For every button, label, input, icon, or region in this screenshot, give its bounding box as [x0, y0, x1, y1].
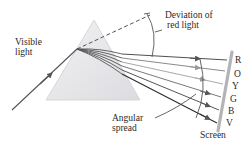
- angular-spread-label: Angular spread: [112, 113, 143, 133]
- spectrum-label-violet: V: [226, 118, 233, 128]
- angular-spread-label-line1: Angular: [112, 113, 143, 123]
- spectrum-label-orange: O: [234, 69, 241, 79]
- prism: [46, 20, 140, 100]
- spectrum-label-blue: B: [228, 106, 234, 116]
- deviation-label: Deviation of red light: [165, 10, 213, 30]
- visible-light-label: Visible light: [15, 37, 42, 57]
- spectrum-label-green: G: [230, 94, 237, 104]
- prism-dispersion-diagram: Visible light Deviation of red light Ang…: [0, 0, 252, 146]
- deviation-label-line2: red light: [165, 20, 213, 30]
- deviation-angle-arc: [144, 13, 162, 57]
- deviation-label-line1: Deviation of: [165, 10, 213, 20]
- screen-label: Screen: [200, 130, 226, 140]
- visible-light-label-line2: light: [15, 47, 42, 57]
- spectrum-label-yellow: Y: [232, 81, 239, 91]
- spectrum-label-red: R: [235, 55, 241, 65]
- angular-spread-label-line2: spread: [112, 123, 143, 133]
- visible-light-label-line1: Visible: [15, 37, 42, 47]
